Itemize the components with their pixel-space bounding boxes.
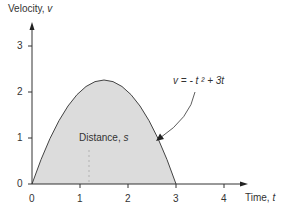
- y-axis-label: Velocity, v: [8, 3, 52, 14]
- x-tick-2: 2: [125, 193, 131, 204]
- equation-label: v = - t ² + 3t: [173, 75, 224, 86]
- y-tick-3: 3: [17, 40, 23, 51]
- x-tick-3: 3: [173, 193, 179, 204]
- x-tick-4: 4: [221, 193, 227, 204]
- y-axis-arrow-icon: [30, 22, 35, 30]
- y-tick-0: 0: [17, 178, 23, 189]
- chart-canvas: [0, 0, 289, 214]
- annotation-arrow: [160, 92, 195, 138]
- y-tick-2: 2: [17, 86, 23, 97]
- y-ticks: [28, 46, 32, 184]
- x-axis-label: Time, t: [245, 192, 275, 203]
- x-ticks: [80, 184, 224, 188]
- x-tick-1: 1: [77, 193, 83, 204]
- y-tick-1: 1: [17, 132, 23, 143]
- area-label: Distance, s: [79, 132, 128, 143]
- x-tick-0: 0: [29, 193, 35, 204]
- x-axis-arrow-icon: [240, 182, 248, 187]
